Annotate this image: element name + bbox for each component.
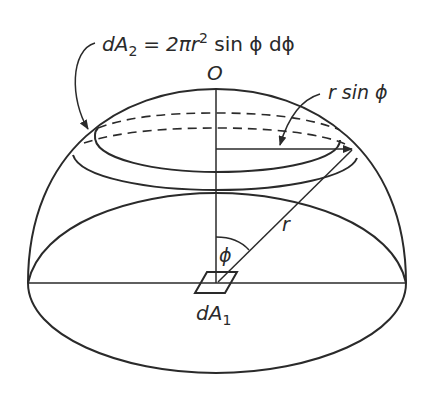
base-ellipse-back <box>28 193 406 283</box>
hemisphere-diagram: dA2=2πr2 sin ϕ dϕ O r sin ϕ r ϕ dA1 <box>0 0 430 393</box>
da2-formula-label: dA2=2πr2 sin ϕ dϕ <box>102 30 295 59</box>
origin-label: O <box>207 61 223 85</box>
hemisphere-outline <box>28 89 406 283</box>
angle-label: ϕ <box>219 244 232 266</box>
lower-ring-back-dashed <box>84 128 345 144</box>
da1-label: dA1 <box>196 301 231 328</box>
base-ellipse-front <box>28 283 406 373</box>
ring-radius-label: r sin ϕ <box>328 81 388 103</box>
upper-ring-front <box>95 135 340 172</box>
da2-leader-arrow <box>75 43 95 129</box>
radius-label: r <box>282 213 291 235</box>
